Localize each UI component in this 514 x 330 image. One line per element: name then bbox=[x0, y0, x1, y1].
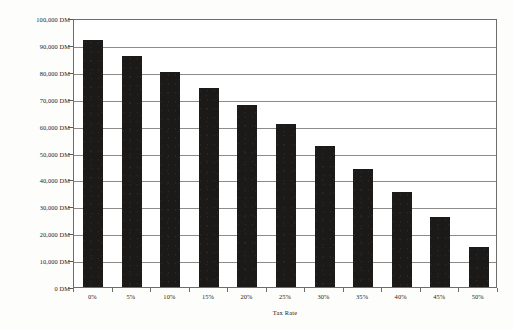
x-axis-tick-mark bbox=[458, 288, 459, 292]
x-axis-tick-label: 15% bbox=[188, 293, 228, 300]
y-axis-tick-mark bbox=[68, 261, 73, 262]
y-axis-tick-label: 100,000 DM bbox=[8, 16, 70, 23]
plot-area bbox=[73, 19, 497, 288]
bar bbox=[430, 217, 450, 287]
x-axis-tick-mark bbox=[304, 288, 305, 292]
y-axis-tick-mark bbox=[68, 100, 73, 101]
y-axis-tick-mark bbox=[68, 127, 73, 128]
y-axis-tick-label: 60,000 DM bbox=[8, 123, 70, 130]
x-axis-tick-label: 30% bbox=[304, 293, 344, 300]
x-axis-tick-label: 45% bbox=[419, 293, 459, 300]
x-axis-tick-mark bbox=[343, 288, 344, 292]
x-axis-tick-label: 35% bbox=[342, 293, 382, 300]
x-axis-tick-label: 25% bbox=[265, 293, 305, 300]
y-axis-tick-label: 80,000 DM bbox=[8, 69, 70, 76]
y-axis-tick-mark bbox=[68, 19, 73, 20]
y-axis-tick-mark bbox=[68, 154, 73, 155]
bar bbox=[392, 192, 412, 287]
x-axis-tick-label: 5% bbox=[111, 293, 151, 300]
y-axis-tick-label: 40,000 DM bbox=[8, 177, 70, 184]
x-axis-tick-mark bbox=[381, 288, 382, 292]
y-axis-tick-label: 30,000 DM bbox=[8, 204, 70, 211]
y-axis-tick-label: 20,000 DM bbox=[8, 231, 70, 238]
x-axis-tick-mark bbox=[420, 288, 421, 292]
x-axis-tick-mark bbox=[266, 288, 267, 292]
y-axis-tick-label: 70,000 DM bbox=[8, 96, 70, 103]
y-axis-tick-mark bbox=[68, 73, 73, 74]
x-axis-title: Tax Rate bbox=[73, 309, 497, 316]
bar bbox=[353, 169, 373, 287]
x-axis-tick-label: 40% bbox=[381, 293, 421, 300]
x-axis-tick-label: 20% bbox=[226, 293, 266, 300]
bar bbox=[276, 124, 296, 287]
x-axis-tick-mark bbox=[112, 288, 113, 292]
y-axis-tick-mark bbox=[68, 180, 73, 181]
bar bbox=[83, 40, 103, 287]
x-axis-tick-mark bbox=[73, 288, 74, 292]
y-axis-tick-label: 90,000 DM bbox=[8, 42, 70, 49]
x-axis-tick-label: 10% bbox=[149, 293, 189, 300]
bar-chart-figure: Value of Equity 0 DM10,000 DM20,000 DM30… bbox=[0, 0, 514, 330]
x-axis-tick-mark bbox=[227, 288, 228, 292]
bar bbox=[469, 247, 489, 287]
bar bbox=[160, 72, 180, 287]
y-axis-tick-label: 50,000 DM bbox=[8, 150, 70, 157]
y-axis-tick-mark bbox=[68, 46, 73, 47]
x-axis-tick-mark bbox=[189, 288, 190, 292]
x-axis-tick-mark bbox=[497, 288, 498, 292]
y-axis-tick-label: 0 DM bbox=[8, 285, 70, 292]
y-axis-tick-mark bbox=[68, 234, 73, 235]
bar bbox=[199, 88, 219, 287]
x-axis-tick-label: 50% bbox=[458, 293, 498, 300]
y-axis-tick-label: 10,000 DM bbox=[8, 258, 70, 265]
bar bbox=[122, 56, 142, 287]
y-axis-tick-labels: 0 DM10,000 DM20,000 DM30,000 DM40,000 DM… bbox=[6, 0, 70, 330]
x-axis-tick-label: 0% bbox=[72, 293, 112, 300]
y-axis-tick-mark bbox=[68, 207, 73, 208]
y-axis-tick-mark bbox=[68, 288, 73, 289]
gridline bbox=[74, 47, 496, 48]
bar bbox=[237, 105, 257, 287]
bar bbox=[315, 146, 335, 287]
x-axis-tick-mark bbox=[150, 288, 151, 292]
